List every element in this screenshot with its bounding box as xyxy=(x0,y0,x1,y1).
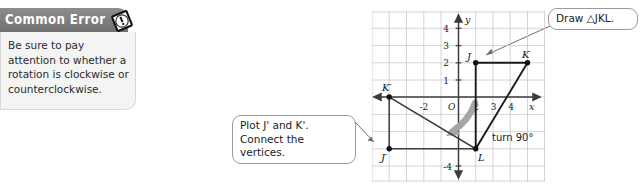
turn-annotation: turn 90° xyxy=(492,132,533,143)
axis-label-x: x xyxy=(529,101,535,112)
common-error-title: Common Error xyxy=(5,11,105,27)
axis-label-y: y xyxy=(464,14,471,25)
y-tick-neg4: -4 xyxy=(443,162,452,172)
common-error-body: Be sure to pay attention to whether a ro… xyxy=(0,32,136,110)
vertex-point-j xyxy=(473,60,478,65)
vertex-point-l xyxy=(473,146,478,151)
y-tick-1: 1 xyxy=(443,76,449,86)
callout-plot-vertices: Plot J' and K'. Connect the vertices. xyxy=(232,115,356,164)
axis-label-origin: O xyxy=(448,102,456,112)
x-tick-4: 4 xyxy=(508,102,514,112)
common-error-callout: Common Error Be sure to pay attention to… xyxy=(0,8,150,116)
x-tick-neg2: -2 xyxy=(419,102,428,112)
vertex-label-k: K xyxy=(521,49,530,60)
vertex-point-j-prime xyxy=(387,146,392,151)
vertex-label-l: L xyxy=(477,152,485,163)
vertex-point-k-prime xyxy=(387,94,392,99)
vertex-label-k-prime: K′ xyxy=(381,82,392,93)
vertex-point-k xyxy=(525,60,530,65)
y-tick-3: 3 xyxy=(443,41,449,51)
x-tick-3: 3 xyxy=(491,102,497,112)
y-tick-2: 2 xyxy=(443,58,449,68)
axes xyxy=(374,15,540,178)
y-tick-4: 4 xyxy=(443,24,449,34)
vertex-label-j-prime: J′ xyxy=(379,152,388,163)
vertex-label-j: J xyxy=(465,51,472,62)
coordinate-graph: y x O 1 2 3 4 -4 -2 2 3 4 xyxy=(372,11,545,182)
callout-draw-triangle: Draw △JKL. xyxy=(548,8,638,30)
common-error-body-text: Be sure to pay attention to whether a ro… xyxy=(8,38,132,96)
